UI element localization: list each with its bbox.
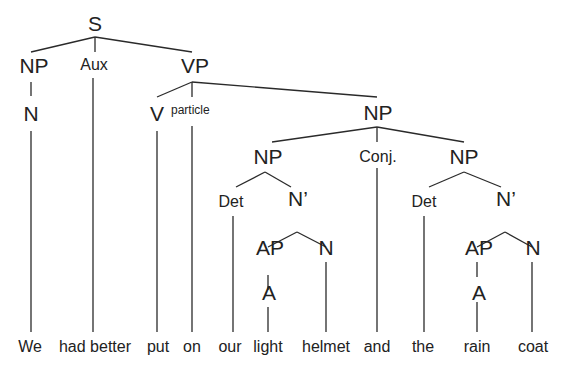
word-light: light [253,338,283,355]
node-aux: Aux [80,56,108,73]
node-conj: Conj. [359,148,396,165]
node-np2: NP [449,145,478,168]
word-rain: rain [464,338,491,355]
node-vp: VP [181,54,209,77]
word-we: We [18,338,42,355]
branch-np2-nbar2 [464,172,501,187]
word-on: on [183,338,201,355]
node-n1: N [318,236,333,259]
node-nbar1: N’ [288,187,308,210]
syntax-tree-diagram: S NP Aux VP N V particle NP NP Conj. NP … [0,0,565,369]
node-s: S [88,12,102,35]
branch-vp-v [157,82,192,97]
node-nbar2: N’ [496,187,516,210]
node-n-subject: N [23,102,38,125]
node-ap2: AP [465,236,493,259]
node-np-subject: NP [19,54,48,77]
node-v: V [150,102,164,125]
word-coat: coat [518,338,549,355]
branch-np1-det1 [236,172,265,187]
node-a1: A [262,281,276,304]
branch-np-np1 [272,127,377,142]
node-a2: A [472,281,486,304]
tree-branches [31,37,532,332]
node-n2: N [525,236,540,259]
word-helmet: helmet [302,338,351,355]
branch-np1-nbar1 [265,172,291,187]
node-np-object: NP [363,101,392,124]
branch-np2-det2 [429,172,464,187]
branch-np-np2 [377,127,464,142]
node-np1: NP [253,145,282,168]
branch-s-vp [95,37,192,52]
node-particle: particle [171,103,210,117]
node-det2: Det [412,193,437,210]
node-ap1: AP [256,236,284,259]
word-and: and [364,338,391,355]
branch-s-np [31,37,95,52]
word-our: our [218,338,242,355]
branch-vp-np [192,82,377,97]
sentence-words: We had better put on our light helmet an… [18,338,549,355]
word-had-better: had better [59,338,132,355]
node-det1: Det [219,193,244,210]
tree-nodes: S NP Aux VP N V particle NP NP Conj. NP … [19,12,540,304]
word-the: the [412,338,434,355]
word-put: put [147,338,170,355]
